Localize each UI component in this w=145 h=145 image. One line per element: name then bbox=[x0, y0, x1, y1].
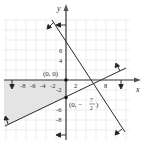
x-tick-label: 2 bbox=[74, 82, 77, 89]
y-axis-arrow-icon bbox=[64, 4, 69, 11]
y-tick-label: 6 bbox=[59, 47, 63, 54]
svg-text:): ) bbox=[96, 101, 99, 109]
x-tick-label: -8 bbox=[20, 82, 25, 89]
y-tick-label: 4 bbox=[59, 57, 63, 64]
x-tick-label: -6 bbox=[30, 82, 36, 89]
y-axis-label: y bbox=[56, 4, 61, 13]
y-intercept-label: (0, − 7 2 ) bbox=[69, 97, 99, 111]
x-tick-label: -2 bbox=[50, 82, 55, 89]
x-tick-label: 8 bbox=[104, 82, 107, 89]
x-axis-label: x bbox=[135, 85, 140, 94]
svg-text:(0, −: (0, − bbox=[69, 101, 82, 109]
x-axis-arrow-icon bbox=[134, 78, 141, 83]
falling-boundary-line bbox=[52, 20, 125, 132]
svg-text:7: 7 bbox=[90, 97, 93, 103]
svg-text:2: 2 bbox=[90, 105, 93, 111]
x-tick-label: -4 bbox=[40, 82, 46, 89]
y-tick-label: -2 bbox=[56, 86, 61, 93]
origin-label: (0, 0) bbox=[43, 70, 59, 78]
y-intercept-point bbox=[64, 96, 68, 100]
origin-point bbox=[64, 78, 68, 82]
y-tick-label: -6 bbox=[56, 106, 62, 113]
y-tick-label: -8 bbox=[56, 116, 61, 123]
inequality-graph: x y -8 -6 -4 -2 2 8 6 4 -2 -6 -8 (0, 0) … bbox=[0, 0, 145, 145]
